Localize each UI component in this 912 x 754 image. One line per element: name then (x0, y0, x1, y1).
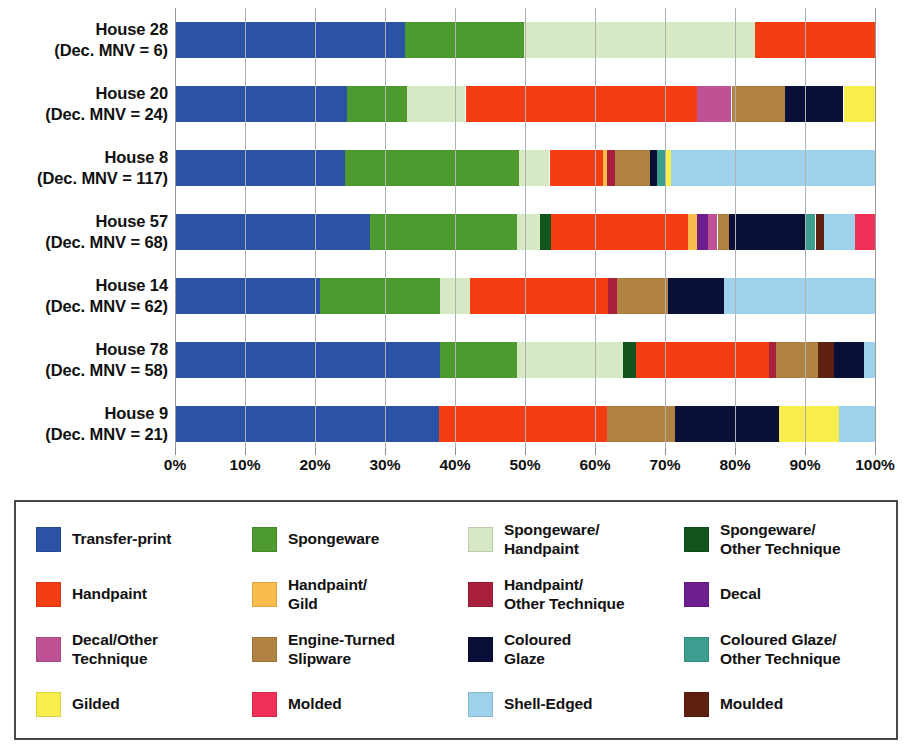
axis-tick (455, 448, 456, 455)
bar-segment (769, 342, 776, 378)
bar-segment (708, 214, 717, 250)
axis-tick-label: 0% (164, 456, 186, 474)
legend-item[interactable]: ColouredGlaze (458, 622, 674, 677)
category-mnv: (Dec. MNV = 68) (45, 232, 168, 253)
legend-label-line: Slipware (288, 650, 395, 668)
legend-label-line: Handpaint (504, 540, 599, 558)
legend-item-label: Handpaint/Other Technique (504, 576, 625, 613)
axis-tick-label: 80% (719, 456, 750, 474)
axis-tick (595, 448, 596, 455)
bar-row: House 57(Dec. MNV = 68) (0, 200, 912, 264)
legend-label-line: Other Technique (504, 595, 625, 613)
legend-item[interactable]: Shell-Edged (458, 677, 674, 732)
legend-item[interactable]: Handpaint/Gild (242, 567, 458, 622)
bar-category-label: House 28(Dec. MNV = 6) (0, 8, 168, 72)
legend-item[interactable]: Transfer-print (26, 512, 242, 567)
legend-label-line: Spongeware/ (720, 521, 841, 539)
legend-item[interactable]: Engine-TurnedSlipware (242, 622, 458, 677)
bar-row: House 8(Dec. MNV = 117) (0, 136, 912, 200)
legend-label-line: Decal (720, 585, 761, 603)
category-name: House 20 (95, 83, 168, 104)
bar-segment (175, 342, 440, 378)
legend-swatch-icon (36, 692, 61, 717)
legend-item[interactable]: Handpaint (26, 567, 242, 622)
category-mnv: (Dec. MNV = 21) (45, 424, 168, 445)
bar-segment (519, 150, 549, 186)
legend-swatch-icon (684, 582, 709, 607)
category-mnv: (Dec. MNV = 62) (45, 296, 168, 317)
legend-swatch-icon (252, 637, 277, 662)
legend-item[interactable]: Moulded (674, 677, 890, 732)
bar-segment (175, 86, 347, 122)
legend-label-line: Glaze (504, 650, 571, 668)
legend-item-label: Coloured Glaze/Other Technique (720, 631, 841, 668)
bar-segment (175, 278, 320, 314)
bar-segment (551, 214, 688, 250)
bar-segment (405, 22, 523, 58)
legend-label-line: Spongeware/ (504, 521, 599, 539)
bar-segment (524, 22, 756, 58)
axis-tick (805, 448, 806, 455)
legend-item[interactable]: Decal (674, 567, 890, 622)
legend-item-label: Transfer-print (72, 530, 171, 548)
legend-item[interactable]: Spongeware/Other Technique (674, 512, 890, 567)
bar-segment (697, 86, 731, 122)
bar-segment (839, 406, 875, 442)
bar-segment (636, 342, 768, 378)
category-name: House 9 (105, 403, 169, 424)
bar-segment (650, 150, 658, 186)
chart-page: House 28(Dec. MNV = 6)House 20(Dec. MNV … (0, 0, 912, 754)
legend-swatch-icon (468, 527, 493, 552)
bar-segment (688, 214, 697, 250)
axis-tick (385, 448, 386, 455)
bar-segment (855, 214, 875, 250)
legend-swatch-icon (468, 692, 493, 717)
legend-item[interactable]: Gilded (26, 677, 242, 732)
axis-tick (245, 448, 246, 455)
bar-segment (657, 150, 666, 186)
legend-item-label: Handpaint/Gild (288, 576, 367, 613)
bar-category-label: House 20(Dec. MNV = 24) (0, 72, 168, 136)
bar-segment (724, 278, 875, 314)
bar-segment (816, 214, 824, 250)
axis-tick (735, 448, 736, 455)
bar-segment (439, 406, 607, 442)
legend-item[interactable]: Decal/OtherTechnique (26, 622, 242, 677)
legend-item-label: Handpaint (72, 585, 147, 603)
legend-label-line: Technique (72, 650, 158, 668)
legend-item-label: Spongeware/Handpaint (504, 521, 599, 558)
bar-category-label: House 14(Dec. MNV = 62) (0, 264, 168, 328)
legend-label-line: Coloured Glaze/ (720, 631, 841, 649)
legend-item[interactable]: Handpaint/Other Technique (458, 567, 674, 622)
legend-swatch-icon (252, 582, 277, 607)
bar-segment (175, 150, 345, 186)
bar-segment (668, 278, 724, 314)
legend-label-line: Handpaint (72, 585, 147, 603)
bar-segment (466, 86, 698, 122)
bar-segment (732, 86, 786, 122)
legend-swatch-icon (684, 692, 709, 717)
legend-label-line: Moulded (720, 695, 783, 713)
legend-item-label: Moulded (720, 695, 783, 713)
axis-tick (875, 448, 876, 455)
legend-label-line: Gilded (72, 695, 120, 713)
legend-swatch-icon (36, 637, 61, 662)
legend-item[interactable]: Spongeware (242, 512, 458, 567)
legend-item-label: Molded (288, 695, 342, 713)
legend-item-label: Decal/OtherTechnique (72, 631, 158, 668)
axis-tick-label: 100% (855, 456, 895, 474)
bar-segment (785, 86, 843, 122)
legend-box: Transfer-printSpongewareSpongeware/Handp… (14, 500, 898, 740)
legend-item[interactable]: Coloured Glaze/Other Technique (674, 622, 890, 677)
legend-item[interactable]: Molded (242, 677, 458, 732)
legend-swatch-icon (468, 582, 493, 607)
legend-swatch-icon (252, 527, 277, 552)
bar-segment (470, 278, 608, 314)
legend-label-line: Transfer-print (72, 530, 171, 548)
bar-segment (834, 342, 864, 378)
category-mnv: (Dec. MNV = 24) (45, 104, 168, 125)
legend-label-line: Handpaint/ (504, 576, 625, 594)
bar-segment (175, 22, 405, 58)
legend-item[interactable]: Spongeware/Handpaint (458, 512, 674, 567)
legend-label-line: Molded (288, 695, 342, 713)
